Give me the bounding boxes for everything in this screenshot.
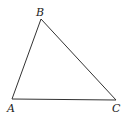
vertex-label-b: B xyxy=(35,6,44,19)
triangle-abc xyxy=(12,19,116,100)
vertex-label-a: A xyxy=(6,102,15,115)
vertex-label-c: C xyxy=(112,102,121,115)
triangle-diagram: A B C xyxy=(0,0,134,123)
